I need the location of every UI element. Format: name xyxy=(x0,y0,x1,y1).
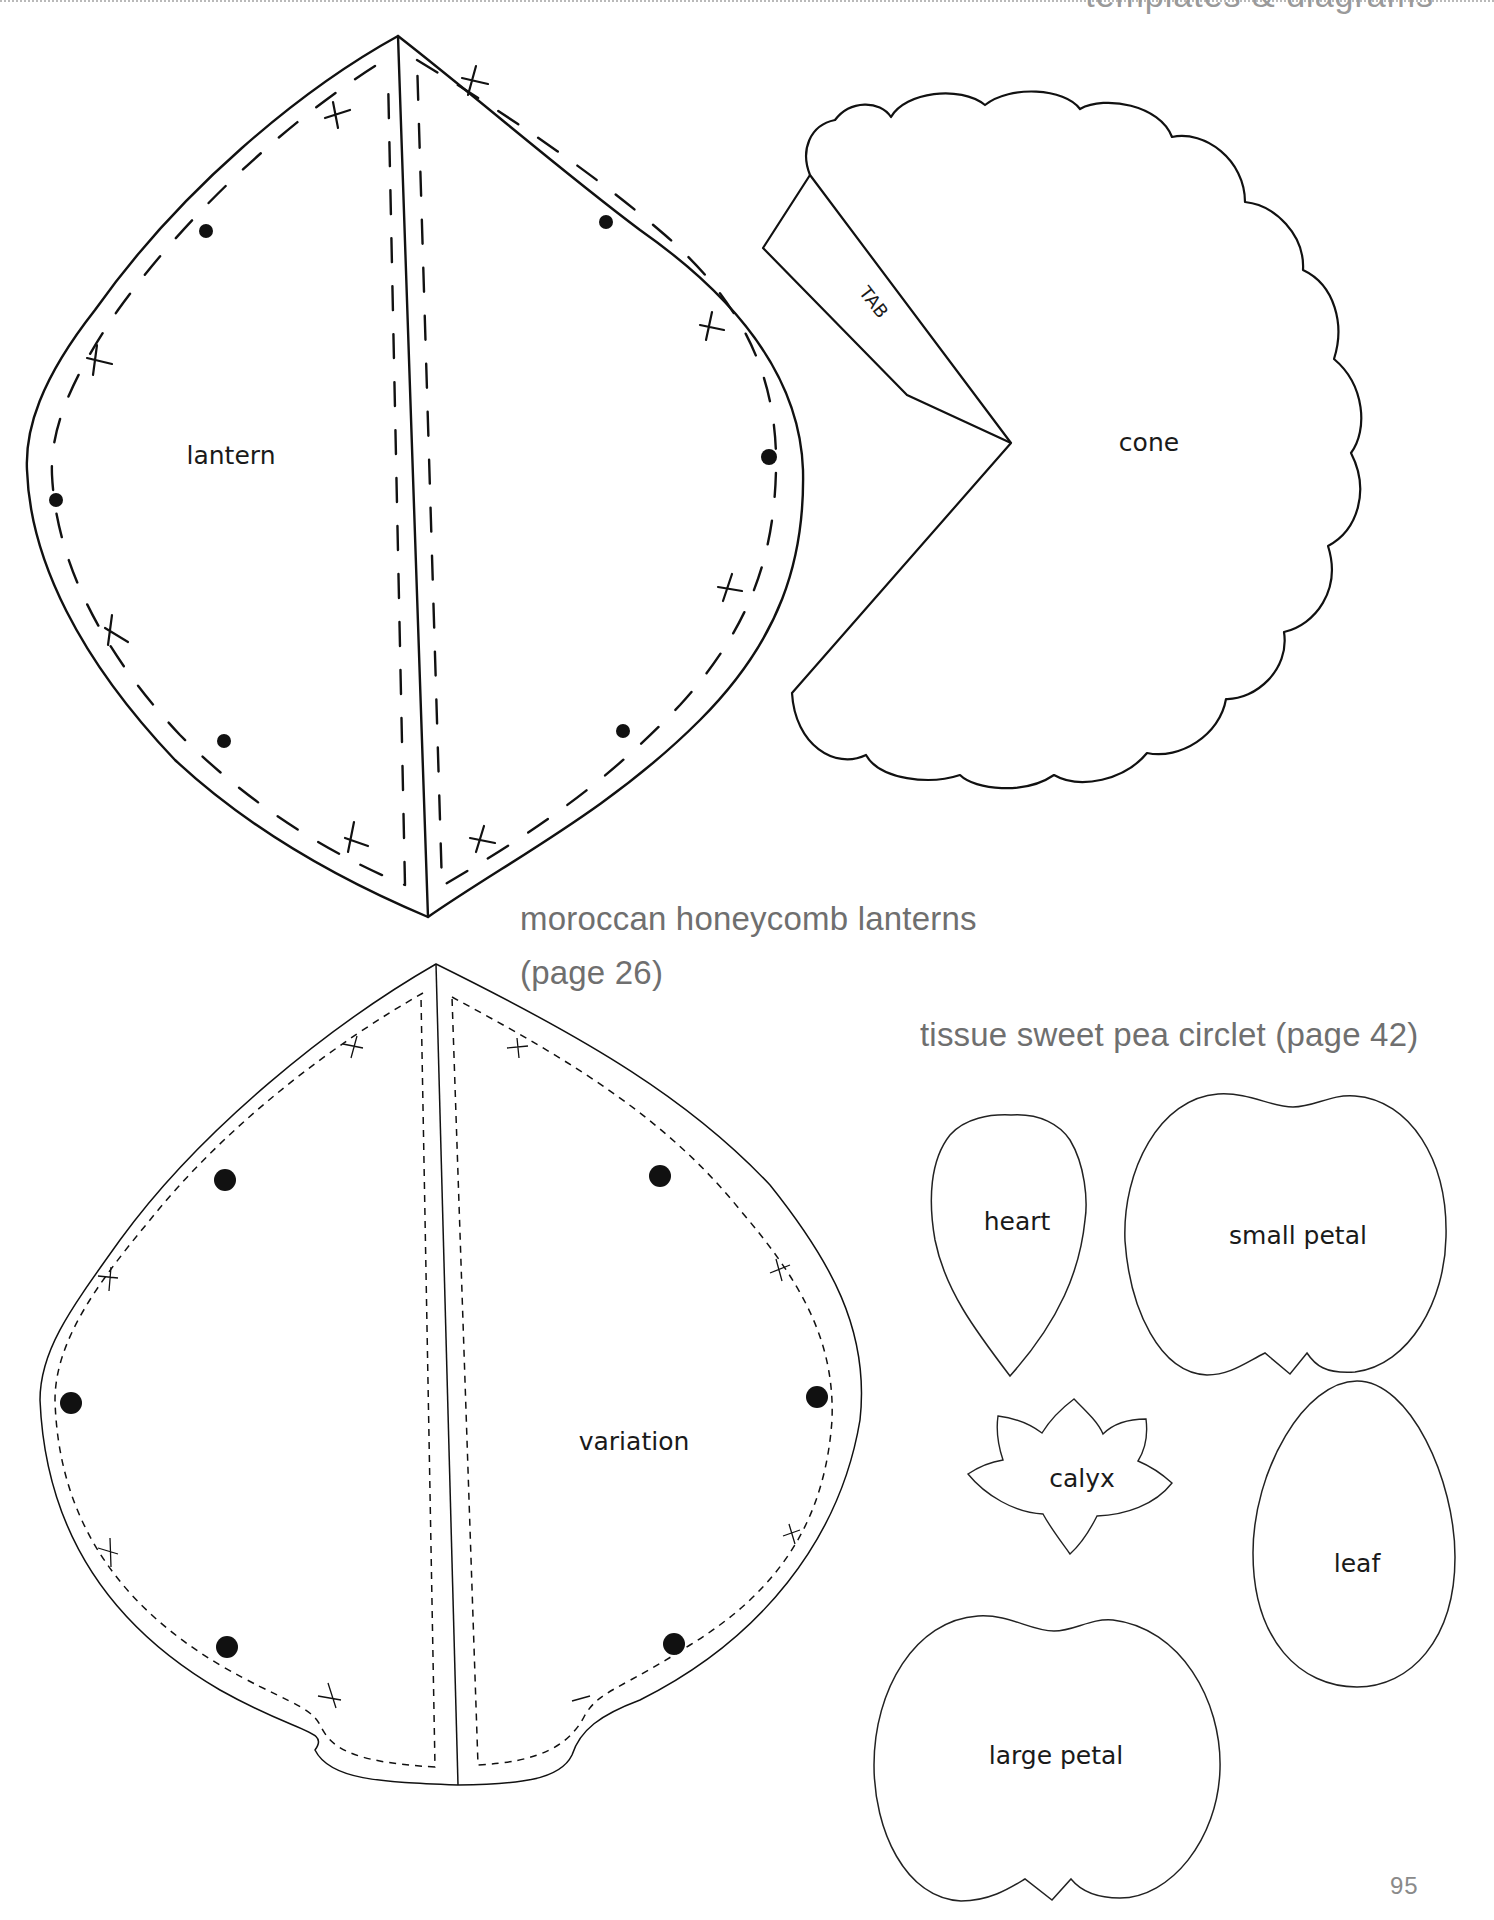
leaf-template xyxy=(1253,1381,1455,1687)
cone-label: cone xyxy=(1119,428,1179,457)
lantern-template xyxy=(27,36,803,917)
cone-template xyxy=(763,92,1361,789)
lanterns-title-line1: moroccan honeycomb lanterns xyxy=(520,892,977,946)
sweet-pea-section-title: tissue sweet pea circlet (page 42) xyxy=(920,1008,1418,1062)
lantern-cross-marks xyxy=(87,66,742,852)
variation-cross-marks xyxy=(98,1036,800,1708)
variation-outline xyxy=(40,964,862,1785)
template-page: templates & diagrams xyxy=(0,0,1494,1920)
lantern-seam-right xyxy=(417,60,776,886)
cone-outline xyxy=(792,92,1361,789)
small-petal-label: small petal xyxy=(1229,1221,1367,1250)
variation-template xyxy=(40,964,862,1785)
leaf-label: leaf xyxy=(1334,1549,1380,1578)
large-petal-label: large petal xyxy=(989,1741,1124,1770)
page-number: 95 xyxy=(1390,1872,1419,1900)
lanterns-section-title: moroccan honeycomb lanterns (page 26) xyxy=(520,892,977,1000)
calyx-label: calyx xyxy=(1049,1464,1115,1493)
heart-template xyxy=(931,1115,1086,1376)
variation-seam-left xyxy=(55,993,435,1767)
lantern-seam-left xyxy=(52,66,405,885)
lanterns-title-line2: (page 26) xyxy=(520,946,977,1000)
variation-seam-right xyxy=(452,997,832,1765)
variation-label: variation xyxy=(579,1427,690,1456)
heart-label: heart xyxy=(984,1207,1051,1236)
variation-center-fold xyxy=(436,964,458,1785)
lantern-label: lantern xyxy=(187,441,276,470)
lantern-outline xyxy=(27,36,803,917)
